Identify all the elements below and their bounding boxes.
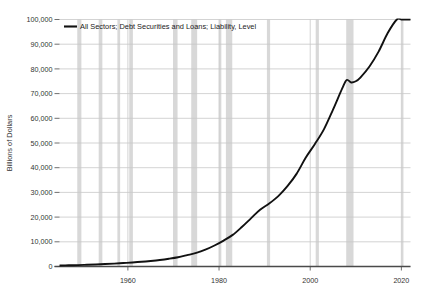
legend-label: All Sectors; Debt Securities and Loans; … <box>80 22 256 31</box>
x-axis-tick-label: 2020 <box>393 276 409 285</box>
legend-group[interactable]: All Sectors; Debt Securities and Loans; … <box>64 22 256 31</box>
y-axis-tick-label: 50,000 <box>31 139 53 148</box>
y-axis-tick-label: 100,000 <box>27 15 53 24</box>
y-axis-tick-label: 30,000 <box>31 188 53 197</box>
x-axis-tick-labels: 1960198020002020 <box>120 267 410 285</box>
chart-container: 010,00020,00030,00040,00050,00060,00070,… <box>0 0 422 300</box>
y-axis-title: Billions of Dollars <box>5 114 14 171</box>
x-axis-tick-label: 2000 <box>302 276 318 285</box>
y-axis-tick-label: 40,000 <box>31 163 53 172</box>
y-axis-title-group: Billions of Dollars <box>5 114 14 171</box>
y-axis-tick-label: 10,000 <box>31 237 53 246</box>
y-axis-tick-labels: 010,00020,00030,00040,00050,00060,00070,… <box>27 15 60 271</box>
x-axis-tick-label: 1980 <box>211 276 227 285</box>
line-chart: 010,00020,00030,00040,00050,00060,00070,… <box>0 0 422 300</box>
gridlines-group <box>60 20 411 267</box>
y-axis-tick-label: 70,000 <box>31 89 53 98</box>
y-axis-tick-label: 60,000 <box>31 114 53 123</box>
y-axis-tick-label: 20,000 <box>31 213 53 222</box>
x-axis-tick-label: 1960 <box>120 276 136 285</box>
data-line-all-sectors <box>60 18 411 265</box>
y-axis-tick-label: 0 <box>49 262 53 271</box>
data-series-group <box>60 18 411 265</box>
y-axis-tick-label: 90,000 <box>31 40 53 49</box>
y-axis-tick-label: 80,000 <box>31 65 53 74</box>
